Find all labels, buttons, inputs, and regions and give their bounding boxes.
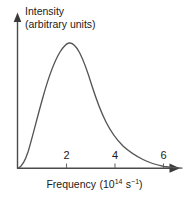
blackbody-spectrum-figure: 2 4 6 Intensity (arbitrary units) Freque… [0,0,189,198]
tick-label-2: 2 [63,149,69,161]
x-axis-unit-exponent2: −1 [131,178,139,185]
intensity-curve [19,43,183,168]
y-axis-label-line2: (arbitrary units) [25,18,96,31]
y-axis-arrowhead [14,13,22,23]
tick-label-6: 6 [160,149,166,161]
y-axis-label: Intensity (arbitrary units) [25,5,96,30]
x-axis-label: Frequency (1014 s−1) [0,178,189,190]
x-axis-unit-close: ) [139,178,143,190]
x-axis-tick-labels: 2 4 6 [63,149,166,161]
y-axis-label-line1: Intensity [25,5,96,18]
x-axis-ticks [67,164,164,169]
x-axis-unit-open: (10 [99,178,114,190]
tick-label-4: 4 [112,149,118,161]
x-axis-label-text: Frequency [46,178,96,190]
y-axis [14,13,22,169]
